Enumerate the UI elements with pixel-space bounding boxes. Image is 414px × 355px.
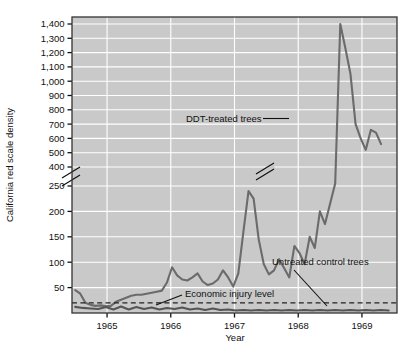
y-axis-title: California red scale density <box>4 108 15 222</box>
y-tick-label: 900 <box>49 90 65 101</box>
x-tick-label: 1969 <box>351 320 372 331</box>
annotation-label-ddt-treated-trees: DDT-treated trees <box>186 113 262 124</box>
x-tick-label: 1968 <box>288 320 309 331</box>
y-tick-label: 1,000 <box>41 76 65 87</box>
y-tick-label: 1,300 <box>41 33 65 44</box>
annotation-label-economic-injury-level: Economic injury level <box>185 288 274 299</box>
y-tick-label: 1,200 <box>41 47 65 58</box>
y-tick-label: 150 <box>49 231 65 242</box>
y-tick-label: 700 <box>49 119 65 130</box>
chart-figure: 1,4001,3001,2001,1001,000900800700600500… <box>0 0 414 355</box>
y-tick-label: 1,100 <box>41 61 65 72</box>
annotation-label-untreated-control-trees: Untreated control trees <box>272 256 369 267</box>
chart-svg: 1,4001,3001,2001,1001,000900800700600500… <box>0 0 414 355</box>
x-axis-title: Year <box>225 332 244 343</box>
y-tick-label: 800 <box>49 104 65 115</box>
x-tick-label: 1965 <box>96 320 117 331</box>
y-tick-label: 50 <box>54 282 65 293</box>
y-tick-label: 400 <box>49 161 65 172</box>
x-tick-label: 1967 <box>224 320 245 331</box>
y-tick-label: 100 <box>49 257 65 268</box>
y-tick-label: 200 <box>49 206 65 217</box>
y-tick-label: 600 <box>49 133 65 144</box>
y-tick-label: 1,400 <box>41 18 65 29</box>
y-tick-label: 500 <box>49 147 65 158</box>
x-tick-label: 1966 <box>160 320 181 331</box>
